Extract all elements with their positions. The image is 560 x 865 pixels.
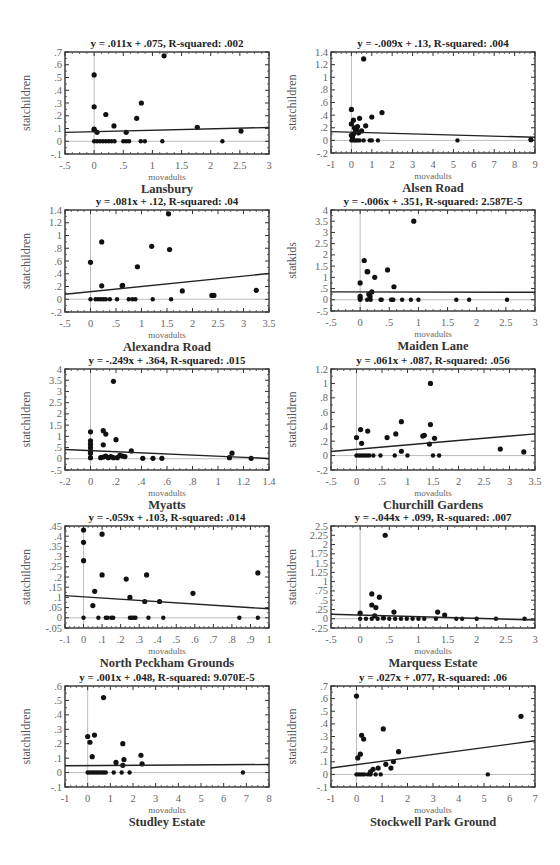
- y-tick-label: 4: [57, 364, 63, 375]
- data-point: [146, 616, 150, 620]
- data-point: [391, 609, 396, 614]
- y-tick-label: 1: [323, 272, 328, 283]
- x-tick-label: 0: [354, 476, 359, 487]
- y-tick-label: 1.4: [315, 47, 329, 58]
- data-point: [505, 298, 509, 302]
- x-tick-label: 2: [474, 317, 479, 328]
- data-point: [393, 453, 397, 457]
- y-tick-label: 1.2: [49, 217, 62, 228]
- data-point: [428, 381, 433, 386]
- data-point: [115, 297, 119, 301]
- panel-site-label: Alexandra Road: [123, 340, 211, 354]
- data-point: [144, 572, 149, 577]
- panel-title: y = .061x + .087, R-squared: .056: [356, 354, 510, 366]
- data-points: [88, 379, 254, 461]
- data-point: [361, 736, 366, 741]
- panel-site-label: Maiden Lane: [397, 339, 469, 353]
- y-tick-label: -.1: [51, 149, 62, 160]
- x-tick-label: .8: [228, 634, 236, 645]
- data-point: [229, 451, 234, 456]
- data-point: [108, 297, 112, 301]
- y-axis-label: statkids: [285, 242, 299, 279]
- data-point: [498, 446, 503, 451]
- y-tick-label: -.05: [45, 623, 62, 634]
- x-tick-label: .5: [385, 634, 393, 645]
- x-tick-label: -.5: [59, 318, 70, 329]
- data-point: [85, 734, 90, 739]
- data-point: [111, 379, 116, 384]
- y-tick-label: -.5: [51, 465, 62, 476]
- data-point: [380, 298, 384, 302]
- data-point: [371, 453, 375, 457]
- x-tick-label: .2: [117, 634, 125, 645]
- data-point: [256, 616, 260, 620]
- x-tick-label: .8: [189, 476, 197, 487]
- data-point: [396, 749, 401, 754]
- x-tick-label: 2.5: [233, 160, 246, 171]
- data-point: [220, 139, 224, 143]
- data-point: [381, 726, 386, 731]
- x-tick-label: 2: [456, 476, 461, 487]
- y-tick-label: .6: [320, 693, 328, 704]
- data-point: [101, 695, 106, 700]
- x-tick-label: .5: [119, 160, 127, 171]
- y-axis-label: statchildren: [19, 75, 33, 131]
- data-point: [355, 124, 360, 129]
- x-tick-label: 0: [358, 317, 363, 328]
- data-point: [127, 139, 131, 143]
- data-point: [135, 264, 140, 269]
- x-tick-label: 1: [405, 476, 410, 487]
- data-point: [139, 100, 144, 105]
- x-tick-label: 1: [369, 159, 374, 170]
- data-point: [112, 770, 116, 774]
- data-point: [140, 456, 145, 461]
- x-tick-label: .4: [138, 476, 147, 487]
- y-tick-label: 3.5: [315, 216, 328, 227]
- y-tick-label: .7: [54, 47, 62, 58]
- y-tick-label: .2: [320, 122, 328, 133]
- data-point: [435, 609, 440, 614]
- y-axis-label: statchildren: [285, 709, 299, 765]
- x-tick-label: 2: [130, 793, 135, 804]
- x-tick-label: 1.5: [441, 317, 454, 328]
- x-tick-label: 3: [153, 793, 158, 804]
- data-point: [120, 283, 125, 288]
- y-axis-label: statchildren: [19, 233, 33, 289]
- y-tick-label: .6: [320, 97, 328, 108]
- y-tick-label: .7: [320, 681, 328, 692]
- data-point: [237, 616, 241, 620]
- x-tick-label: .7: [209, 634, 217, 645]
- x-tick-label: -1: [327, 159, 336, 170]
- data-point: [88, 297, 92, 301]
- x-tick-label: 2: [474, 634, 479, 645]
- data-point: [378, 453, 382, 457]
- y-tick-label: .15: [49, 582, 62, 593]
- plot-frame: [65, 526, 269, 628]
- y-tick-label: 2.5: [315, 238, 328, 249]
- data-point: [99, 572, 104, 577]
- data-point: [101, 442, 106, 447]
- data-point: [169, 297, 173, 301]
- y-tick-label: .8: [54, 243, 62, 254]
- data-point: [405, 453, 409, 457]
- y-tick-label: .45: [49, 521, 62, 532]
- y-tick-label: .1: [54, 592, 62, 603]
- data-point: [375, 617, 379, 621]
- data-point: [379, 772, 383, 776]
- y-tick-label: 0: [323, 135, 328, 146]
- data-point: [416, 298, 420, 302]
- data-point: [385, 267, 390, 272]
- y-tick-label: 3: [323, 227, 328, 238]
- x-axis-label: movadults: [414, 805, 452, 815]
- x-tick-label: -.5: [325, 476, 336, 487]
- data-point: [373, 605, 378, 610]
- x-axis-label: movadults: [414, 488, 452, 498]
- scatter-panel-alsen-road: y = -.009x + .13, R-squared: .004-101234…: [285, 37, 538, 195]
- panel-site-label: North Peckham Grounds: [100, 656, 235, 670]
- x-tick-label: .9: [247, 634, 255, 645]
- y-tick-label: 2: [57, 408, 62, 419]
- y-tick-label: .2: [320, 744, 328, 755]
- plot-frame: [65, 369, 269, 470]
- data-point: [411, 219, 416, 224]
- panel-title: y = -.006x + .351, R-squared: 2.587E-5: [343, 195, 523, 207]
